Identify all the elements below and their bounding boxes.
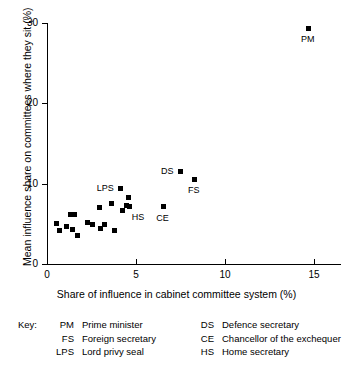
data-point xyxy=(127,204,132,209)
data-point xyxy=(306,26,311,31)
key-description: Chancellor of the exchequer xyxy=(222,332,341,346)
data-point xyxy=(90,222,95,227)
x-tick-label: 5 xyxy=(121,270,151,280)
key-abbreviation: PM xyxy=(46,318,74,332)
x-tick-label: 10 xyxy=(210,270,240,280)
key-abbreviation: CE xyxy=(186,332,214,346)
key-description: Prime minister xyxy=(82,318,143,332)
data-point xyxy=(178,169,183,174)
scatter-plot-figure: 0102030051015 Mean influence share on co… xyxy=(0,0,353,366)
data-point-label: FS xyxy=(188,186,200,195)
data-point xyxy=(70,227,75,232)
key-abbreviation: LPS xyxy=(46,345,74,359)
key-description: Lord privy seal xyxy=(82,345,144,359)
x-tick-label: 15 xyxy=(299,270,329,280)
data-point xyxy=(102,222,107,227)
data-point xyxy=(120,208,125,213)
x-axis-label: Share of influence in cabinet committee … xyxy=(0,288,353,300)
data-point xyxy=(192,177,197,182)
data-point xyxy=(126,195,131,200)
key-abbreviation: DS xyxy=(186,318,214,332)
data-point xyxy=(109,201,114,206)
data-point-label: LPS xyxy=(97,184,114,193)
data-point xyxy=(75,233,80,238)
data-point xyxy=(118,186,123,191)
x-tick-label: 0 xyxy=(32,270,62,280)
data-point-label: HS xyxy=(132,213,145,222)
y-axis-label: Mean influence share on committees where… xyxy=(21,26,33,266)
key-abbreviation: HS xyxy=(186,345,214,359)
data-point xyxy=(97,205,102,210)
plot-area: LPSHSCEDSFSPM xyxy=(47,23,340,264)
data-point xyxy=(57,228,62,233)
data-point xyxy=(112,228,117,233)
key-description: Home secretary xyxy=(222,345,289,359)
key-description: Foreign secretary xyxy=(82,332,156,346)
key-abbreviation: FS xyxy=(46,332,74,346)
key-description: Defence secretary xyxy=(222,318,299,332)
data-point-label: PM xyxy=(301,35,315,44)
data-point xyxy=(161,204,166,209)
data-point-label: DS xyxy=(161,167,174,176)
x-axis-line xyxy=(47,264,341,265)
key-title: Key: xyxy=(18,318,37,332)
data-point xyxy=(72,212,77,217)
data-point xyxy=(64,224,69,229)
data-point xyxy=(54,221,59,226)
data-point-label: CE xyxy=(156,214,169,223)
